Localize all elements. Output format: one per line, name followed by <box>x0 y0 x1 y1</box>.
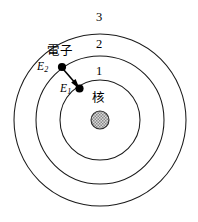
atomic-model-diagram: 3 2 1 電子 核 E2 E1 <box>0 0 198 222</box>
energy-level-label-inner: E1 <box>60 83 71 96</box>
energy-level-label-outer: E2 <box>37 61 48 74</box>
energy-symbol-outer: E <box>37 60 44 72</box>
nucleus-label: 核 <box>92 92 105 105</box>
electron-dot-outer <box>58 63 66 71</box>
energy-subscript-inner: 1 <box>67 87 71 96</box>
shell-label-2: 2 <box>89 38 109 51</box>
nucleus-circle <box>91 111 109 129</box>
electron-label: 電子 <box>47 45 73 58</box>
shell-label-1: 1 <box>89 65 109 78</box>
energy-subscript-outer: 2 <box>44 65 48 74</box>
bohr-model-svg <box>0 0 198 222</box>
energy-symbol-inner: E <box>60 82 67 94</box>
electron-dot-inner <box>75 84 83 92</box>
shell-label-3: 3 <box>89 11 109 24</box>
